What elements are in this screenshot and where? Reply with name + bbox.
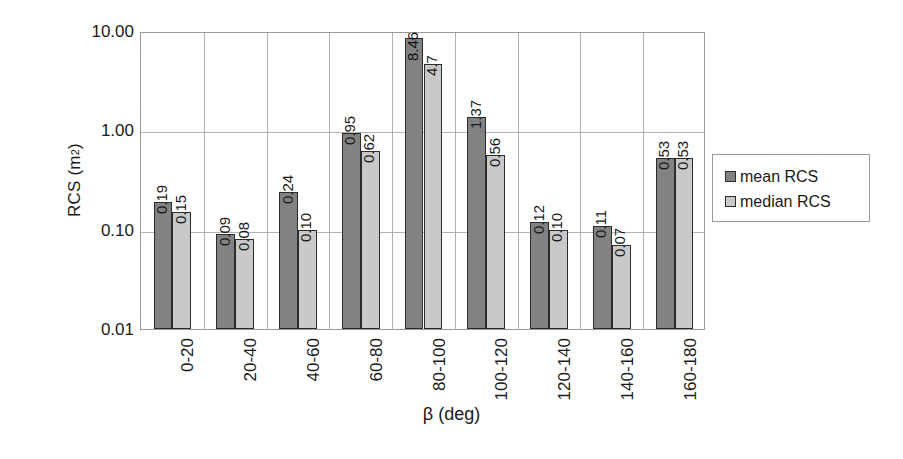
bar-mean	[216, 234, 235, 329]
vertical-gridline	[204, 33, 205, 329]
bar-value-label: 0.10	[549, 212, 564, 241]
vertical-gridline	[643, 33, 644, 329]
bar-mean	[593, 226, 612, 329]
bar-value-label: 0.10	[298, 212, 313, 241]
bar-value-label: 0.08	[236, 222, 251, 251]
bar-median	[612, 245, 631, 329]
bar-value-label: 0.11	[593, 209, 608, 237]
bar-mean	[342, 133, 361, 329]
bar-median	[675, 158, 694, 329]
x-axis-tick-label: 120-140	[556, 338, 573, 400]
x-axis-tick-label: 140-160	[619, 338, 636, 400]
bar-mean	[405, 38, 424, 329]
bar-value-label: 0.07	[612, 228, 627, 257]
vertical-gridline	[580, 33, 581, 329]
bar-value-label: 1.37	[468, 100, 483, 129]
bar-mean	[467, 117, 486, 329]
bar-median	[361, 151, 380, 329]
vertical-gridline	[518, 33, 519, 329]
bar-mean	[656, 158, 675, 329]
vertical-gridline	[455, 33, 456, 329]
bar-value-label: 0.09	[217, 217, 232, 246]
legend-item-mean[interactable]: mean RCS	[725, 164, 869, 189]
x-axis-tick-label: 20-40	[242, 338, 259, 381]
y-axis-tick-label: 0.10	[64, 222, 134, 239]
bar-median	[486, 155, 505, 329]
bar-value-label: 0.19	[154, 185, 169, 214]
bar-value-label: 0.53	[656, 141, 671, 170]
bar-value-label: 0.24	[280, 175, 295, 204]
bar-value-label: 4.7	[424, 55, 439, 76]
bar-mean	[154, 202, 173, 329]
bar-mean	[279, 192, 298, 329]
bar-median	[549, 230, 568, 329]
x-axis-tick-label: 40-60	[305, 338, 322, 381]
x-axis-tick-label: 100-120	[493, 338, 510, 400]
bar-mean	[530, 222, 549, 329]
bar-median	[172, 212, 191, 329]
bar-median	[235, 239, 254, 329]
x-axis-tick-label: 80-100	[431, 338, 448, 391]
legend-item-label: mean RCS	[740, 168, 818, 186]
y-axis-tick-label: 0.01	[64, 321, 134, 338]
legend-swatch-icon	[725, 171, 736, 182]
x-axis-title: β (deg)	[0, 404, 903, 425]
x-axis-tick-label: 160-180	[682, 338, 699, 400]
bar-median	[424, 64, 443, 329]
bar-value-label: 0.12	[531, 205, 546, 234]
legend-item-median[interactable]: median RCS	[725, 189, 869, 214]
bar-value-label: 0.15	[173, 195, 188, 224]
y-axis-tick-label: 1.00	[64, 122, 134, 139]
x-axis-tick-label: 60-80	[368, 338, 385, 381]
vertical-gridline	[267, 33, 268, 329]
vertical-gridline	[392, 33, 393, 329]
y-axis-ticks: 10.001.000.100.01	[58, 0, 134, 459]
bar-value-label: 0.95	[342, 115, 357, 144]
bar-value-label: 0.53	[675, 141, 690, 170]
bar-value-label: 0.62	[361, 134, 376, 163]
legend-item-label: median RCS	[740, 193, 831, 211]
x-axis-tick-label: 0-20	[179, 338, 196, 372]
y-axis-tick-label: 10.00	[64, 23, 134, 40]
bar-value-label: 8.46	[405, 32, 420, 61]
bar-median	[298, 230, 317, 329]
legend-swatch-icon	[725, 196, 736, 207]
plot-area: 0.190.150.090.080.240.100.950.628.464.71…	[140, 32, 705, 330]
rcs-bar-chart-figure: RCS (m2) 10.001.000.100.01 0.190.150.090…	[0, 0, 903, 459]
bar-value-label: 0.56	[487, 138, 502, 167]
vertical-gridline	[329, 33, 330, 329]
chart-legend: mean RCSmedian RCS	[712, 154, 870, 222]
